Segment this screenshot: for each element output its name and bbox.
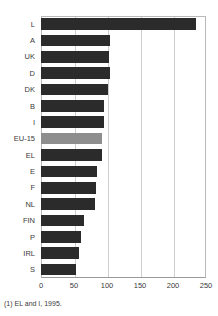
bar-d	[41, 67, 110, 79]
category-label-s: S	[0, 262, 38, 278]
bar-b	[41, 100, 104, 112]
bar-row	[41, 114, 206, 130]
x-tick-200: 200	[167, 281, 180, 290]
x-tick-100: 100	[101, 281, 114, 290]
x-tick-0: 0	[39, 281, 43, 290]
bar-row	[41, 98, 206, 114]
bar-row	[41, 196, 206, 212]
category-label-e: E	[0, 163, 38, 179]
bar-row	[41, 82, 206, 98]
bar-series	[41, 16, 206, 278]
category-label-i: I	[0, 114, 38, 130]
category-label-f: F	[0, 180, 38, 196]
category-label-l: L	[0, 16, 38, 32]
category-label-el: EL	[0, 147, 38, 163]
bar-f	[41, 182, 96, 194]
bar-p	[41, 231, 81, 243]
bar-row	[41, 213, 206, 229]
bar-i	[41, 116, 104, 128]
bar-nl	[41, 198, 95, 210]
bar-row	[41, 65, 206, 81]
category-label-a: A	[0, 32, 38, 48]
bar-row	[41, 147, 206, 163]
x-tick-50: 50	[70, 281, 78, 290]
category-label-nl: NL	[0, 196, 38, 212]
category-label-irl: IRL	[0, 245, 38, 261]
category-label-b: B	[0, 98, 38, 114]
bar-row	[41, 262, 206, 278]
category-axis-labels: LAUKDDKBIEU-15ELEFNLFINPIRLS	[0, 16, 38, 278]
bar-s	[41, 264, 76, 276]
bar-el	[41, 149, 102, 161]
bar-row	[41, 16, 206, 32]
bar-fin	[41, 215, 84, 227]
x-tick-250: 250	[200, 281, 213, 290]
category-label-fin: FIN	[0, 213, 38, 229]
bar-row	[41, 163, 206, 179]
bar-row	[41, 49, 206, 65]
bar-dk	[41, 84, 108, 96]
bar-row	[41, 180, 206, 196]
category-label-dk: DK	[0, 82, 38, 98]
x-tick-150: 150	[134, 281, 147, 290]
bar-irl	[41, 247, 79, 259]
bar-row	[41, 32, 206, 48]
category-label-p: P	[0, 229, 38, 245]
category-label-eu-15: EU-15	[0, 131, 38, 147]
category-label-d: D	[0, 65, 38, 81]
bar-a	[41, 35, 110, 47]
bar-eu-15	[41, 133, 102, 145]
bar-l	[41, 18, 196, 30]
bar-row	[41, 131, 206, 147]
bar-uk	[41, 51, 109, 63]
chart-footnote: (1) EL and I, 1995.	[4, 300, 62, 307]
bar-e	[41, 166, 97, 178]
bar-row	[41, 245, 206, 261]
category-label-uk: UK	[0, 49, 38, 65]
bar-row	[41, 229, 206, 245]
value-axis-labels: 050100150200250	[0, 281, 218, 293]
